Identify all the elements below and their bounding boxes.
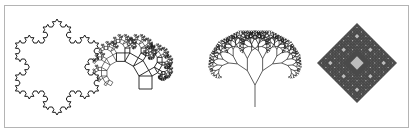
fractal-binary-tree: [208, 31, 302, 107]
koch-snowflake: [15, 19, 98, 115]
diamond-carpet: [317, 23, 397, 103]
pythagoras-tree: [93, 34, 173, 89]
fractal-figure: [0, 0, 415, 134]
